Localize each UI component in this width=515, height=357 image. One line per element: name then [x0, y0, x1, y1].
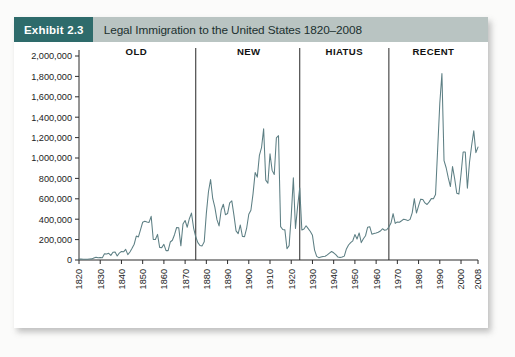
x-tick-label: 1910 — [265, 269, 275, 289]
y-tick-label: 600,000 — [39, 194, 72, 204]
x-tick-label: 1830 — [96, 269, 106, 289]
y-tick-label: 1,200,000 — [31, 133, 72, 143]
x-tick-label: 1960 — [372, 269, 382, 289]
era-label: HIATUS — [326, 46, 364, 57]
y-axis-tick-marks — [75, 56, 79, 260]
y-axis-tick-labels: 2,000,0001,800,0001,600,0001,400,0001,20… — [31, 51, 72, 265]
y-tick-label: 1,800,000 — [31, 72, 72, 82]
x-tick-label: 1860 — [159, 269, 169, 289]
x-tick-label: 1880 — [202, 269, 212, 289]
immigration-series-line — [79, 74, 478, 260]
x-tick-label: 1950 — [350, 269, 360, 289]
era-label: OLD — [126, 46, 147, 57]
x-tick-label: 1870 — [181, 269, 191, 289]
x-tick-label: 1930 — [308, 269, 318, 289]
chart-plot-area: 2,000,0001,800,0001,600,0001,400,0001,20… — [14, 42, 488, 328]
y-tick-label: 1,600,000 — [31, 92, 72, 102]
era-label: NEW — [237, 46, 261, 57]
exhibit-title: Legal Immigration to the United States 1… — [93, 17, 362, 42]
era-label: RECENT — [413, 46, 455, 57]
y-tick-label: 400,000 — [39, 215, 72, 225]
x-tick-label: 1820 — [74, 269, 84, 289]
x-tick-label: 1980 — [414, 269, 424, 289]
y-tick-label: 0 — [67, 255, 72, 265]
exhibit-number-badge: Exhibit 2.3 — [14, 17, 93, 42]
x-tick-label: 1920 — [287, 269, 297, 289]
x-tick-label: 1850 — [138, 269, 148, 289]
x-tick-label: 1990 — [435, 269, 445, 289]
x-tick-label: 1940 — [329, 269, 339, 289]
y-tick-label: 2,000,000 — [31, 51, 72, 61]
y-tick-label: 800,000 — [39, 174, 72, 184]
y-tick-label: 200,000 — [39, 235, 72, 245]
era-labels: OLDNEWHIATUSRECENT — [126, 46, 455, 57]
x-tick-label: 1840 — [117, 269, 127, 289]
y-tick-label: 1,000,000 — [31, 153, 72, 163]
x-tick-label: 1970 — [393, 269, 403, 289]
immigration-line-chart: 2,000,0001,800,0001,600,0001,400,0001,20… — [14, 42, 488, 328]
x-axis-tick-labels: 1820183018401850186018701880189019001910… — [74, 269, 483, 289]
x-tick-label: 1900 — [244, 269, 254, 289]
x-tick-label: 2000 — [456, 269, 466, 289]
era-divider-lines — [196, 48, 389, 260]
x-tick-label: 1890 — [223, 269, 233, 289]
exhibit-header: Exhibit 2.3 Legal Immigration to the Uni… — [14, 17, 488, 42]
y-tick-label: 1,400,000 — [31, 113, 72, 123]
x-tick-label: 2008 — [473, 269, 483, 289]
x-axis-tick-marks — [79, 260, 478, 264]
exhibit-card: Exhibit 2.3 Legal Immigration to the Uni… — [14, 17, 488, 328]
